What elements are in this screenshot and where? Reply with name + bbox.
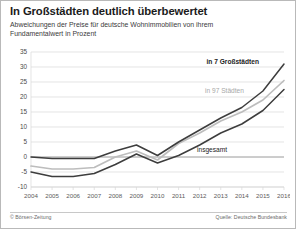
svg-text:in 97 Städten: in 97 Städten [205,87,244,94]
footer-divider [10,212,287,213]
y-axis-ticks: 35302520151050-5-10 [18,48,28,190]
data-series-group [31,64,284,177]
svg-text:2004: 2004 [24,192,38,199]
svg-text:2016: 2016 [277,192,290,199]
svg-text:2015: 2015 [256,192,270,199]
svg-text:2013: 2013 [214,192,228,199]
svg-text:15: 15 [20,108,28,115]
chart-subtitle: Abweichungen der Preise für deutsche Woh… [10,21,225,38]
svg-text:25: 25 [20,78,28,85]
credit-text: © Börsen-Zeitung [10,214,52,220]
chart-title: In Großstädten deutlich überbewertet [10,5,289,18]
svg-text:2006: 2006 [66,192,80,199]
plot-area: 35302520151050-5-10 20042005200620072008… [9,47,290,207]
svg-text:-10: -10 [18,183,28,190]
svg-text:2007: 2007 [87,192,101,199]
svg-text:30: 30 [20,63,28,70]
svg-text:-5: -5 [21,168,27,175]
svg-text:2011: 2011 [172,192,186,199]
svg-text:insgesamt: insgesamt [197,146,227,154]
svg-text:35: 35 [20,48,28,55]
svg-text:5: 5 [23,138,27,145]
svg-text:in 7 Großstädten: in 7 Großstädten [207,58,259,65]
svg-text:20: 20 [20,93,28,100]
svg-text:2005: 2005 [45,192,59,199]
svg-text:0: 0 [23,153,27,160]
source-text: Quelle: Deutsche Bundesbank [216,214,287,220]
svg-text:10: 10 [20,123,28,130]
chart-footer: © Börsen-Zeitung Quelle: Deutsche Bundes… [10,212,287,224]
svg-text:2009: 2009 [130,192,144,199]
series-annotations: in 7 Großstädtenin 97 Städteninsgesamt [197,58,259,154]
svg-text:2014: 2014 [235,192,249,199]
svg-text:2008: 2008 [108,192,122,199]
chart-header: In Großstädten deutlich überbewertet Abw… [10,5,289,38]
chart-figure: In Großstädten deutlich überbewertet Abw… [0,0,296,229]
line-chart-svg: 35302520151050-5-10 20042005200620072008… [9,47,290,207]
svg-text:2012: 2012 [193,192,207,199]
gridlines [31,52,284,187]
svg-text:2010: 2010 [151,192,165,199]
